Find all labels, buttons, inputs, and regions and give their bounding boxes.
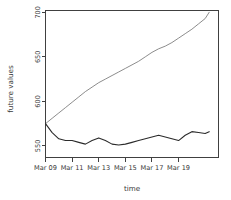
y-tick-label: 650 xyxy=(35,51,43,64)
series-line-observed-values xyxy=(46,124,210,145)
x-tick-label: Mar 13 xyxy=(87,164,110,172)
chart-canvas: 550600650700 Mar 09Mar 11Mar 13Mar 15Mar… xyxy=(0,0,231,200)
y-tick-label: 700 xyxy=(35,6,43,19)
y-axis-tick-labels: 550600650700 xyxy=(35,6,43,152)
y-axis-title: future values xyxy=(6,65,15,113)
y-axis-ticks xyxy=(42,12,46,146)
y-tick-label: 600 xyxy=(35,95,43,108)
x-axis-tick-labels: Mar 09Mar 11Mar 13Mar 15Mar 17Mar 19 xyxy=(34,164,190,172)
data-series-group xyxy=(46,12,210,145)
series-line-upper-projection xyxy=(46,12,210,123)
x-tick-label: Mar 15 xyxy=(114,164,137,172)
x-tick-label: Mar 19 xyxy=(167,164,190,172)
y-tick-label: 550 xyxy=(35,140,43,153)
x-tick-label: Mar 09 xyxy=(34,164,57,172)
x-tick-label: Mar 17 xyxy=(140,164,163,172)
plot-figure: 550600650700 Mar 09Mar 11Mar 13Mar 15Mar… xyxy=(0,0,231,200)
x-axis-title: time xyxy=(124,184,141,193)
plot-frame xyxy=(46,11,219,158)
x-axis-ticks xyxy=(46,158,179,162)
x-tick-label: Mar 11 xyxy=(61,164,84,172)
